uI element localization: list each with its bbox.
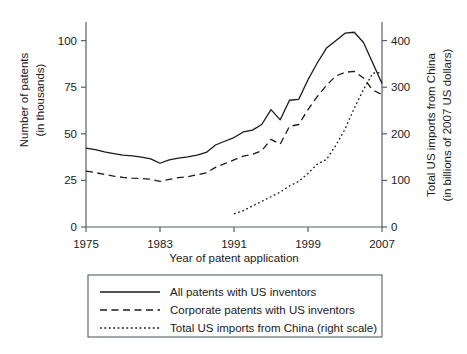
- chart-legend: All patents with US inventorsCorporate p…: [88, 275, 382, 337]
- bottom-tick-label: 1975: [73, 238, 99, 250]
- right-tick-label: 400: [391, 35, 410, 47]
- legend-label: Corporate patents with US inventors: [170, 304, 355, 316]
- bottom-tick-label: 1983: [147, 238, 173, 250]
- left-tick-label: 100: [58, 35, 77, 47]
- right-tick-label: 100: [391, 174, 410, 186]
- left-tick-label: 0: [71, 221, 77, 233]
- line-chart: 0255075100 0100200300400 197519831991199…: [0, 0, 467, 354]
- chart-figure: 0255075100 0100200300400 197519831991199…: [0, 0, 467, 354]
- bottom-tick-label: 1999: [295, 238, 321, 250]
- bottom-tick-label: 1991: [221, 238, 247, 250]
- y-axis-title-line2: (in thousands): [34, 63, 46, 136]
- bottom-tick-label: 2007: [369, 238, 395, 250]
- left-tick-label: 50: [64, 128, 77, 140]
- legend-label: All patents with US inventors: [170, 286, 317, 298]
- right-tick-label: 200: [391, 128, 410, 140]
- left-tick-label: 75: [64, 81, 77, 93]
- left-tick-label: 25: [64, 174, 77, 186]
- y-axis-title-line1: Number of patents: [18, 52, 30, 147]
- right-tick-label: 0: [391, 221, 397, 233]
- right-tick-label: 300: [391, 81, 410, 93]
- y2-axis-title-line1: Total US imports from China: [425, 52, 437, 196]
- x-axis-title: Year of patent application: [169, 252, 298, 264]
- y2-axis-title-line2: (in billions of 2007 US dollars): [441, 48, 453, 201]
- legend-label: Total US imports from China (right scale…: [170, 322, 377, 334]
